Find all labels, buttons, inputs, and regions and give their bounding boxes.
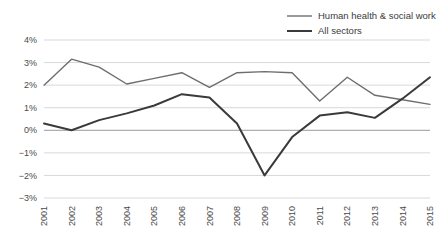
x-axis-tick-label: 2010 (287, 206, 297, 226)
y-axis-tick-label: 2% (24, 80, 37, 90)
x-axis-tick-label: 2011 (315, 206, 325, 225)
series-line-0 (44, 59, 430, 104)
series-group (44, 59, 430, 175)
y-axis-tick-label: 1% (24, 103, 37, 113)
x-axis-tick-label: 2001 (39, 206, 49, 226)
x-axis-tick-label: 2003 (94, 206, 104, 226)
chart-canvas: 4%3%2%1%0%−1%−2%−3% 20012002200320042005… (0, 0, 442, 248)
x-axis-tick-label: 2007 (205, 206, 215, 226)
x-axis-tick-label: 2002 (67, 206, 77, 226)
y-axis-tick-label: 4% (24, 35, 37, 45)
x-axis-tick-label: 2008 (232, 206, 242, 226)
x-axis-tick-label: 2006 (177, 206, 187, 226)
y-axis-labels-group: 4%3%2%1%0%−1%−2%−3% (19, 35, 37, 203)
y-axis-tick-label: −2% (19, 171, 37, 181)
x-axis-labels-group: 2001200220032004200520062007200820092010… (39, 206, 435, 226)
chart-legend: Human health & social workAll sectors (287, 10, 436, 36)
line-chart: 4%3%2%1%0%−1%−2%−3% 20012002200320042005… (0, 0, 442, 248)
x-axis-tick-label: 2014 (398, 206, 408, 226)
x-axis-tick-label: 2015 (425, 206, 435, 226)
x-axis-tick-label: 2009 (260, 206, 270, 226)
x-axis-tick-label: 2013 (370, 206, 380, 226)
y-axis-tick-label: −1% (19, 148, 37, 158)
y-axis-tick-label: 0% (24, 125, 37, 135)
legend-label-0: Human health & social work (318, 10, 436, 21)
y-axis-tick-label: 3% (24, 58, 37, 68)
legend-label-1: All sectors (318, 25, 362, 36)
x-axis-tick-label: 2005 (149, 206, 159, 226)
y-axis-tick-label: −3% (19, 193, 37, 203)
x-axis-tick-label: 2012 (342, 206, 352, 226)
x-axis-tick-label: 2004 (122, 206, 132, 226)
series-line-1 (44, 77, 430, 175)
